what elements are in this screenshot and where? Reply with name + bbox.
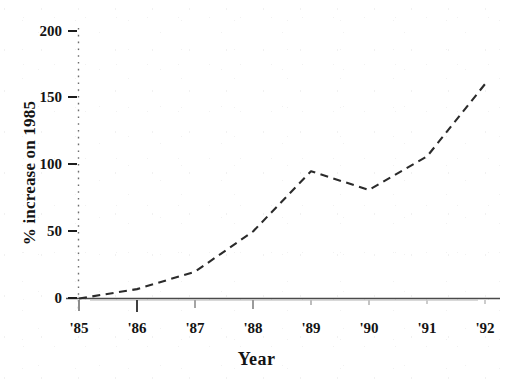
y-tick-mark-100 — [68, 163, 77, 165]
x-tick-mark-90 — [368, 300, 370, 305]
x-tick-mark-86 — [136, 300, 138, 312]
y-tick-label-0: 0 — [22, 291, 62, 306]
y-tick-mark-200 — [68, 30, 77, 32]
x-tick-mark-92 — [484, 300, 486, 304]
y-tick-mark-150 — [68, 96, 77, 98]
x-tick-label-89: '89 — [289, 320, 333, 336]
x-tick-label-92: '92 — [463, 320, 507, 336]
x-tick-mark-87 — [194, 300, 196, 308]
y-tick-mark-50 — [68, 230, 77, 232]
x-tick-mark-88 — [252, 300, 254, 309]
x-tick-label-91: '91 — [405, 320, 449, 336]
chart-figure: % increase on 1985 200 150 100 50 0 '85 … — [0, 0, 513, 390]
x-tick-label-88: '88 — [231, 320, 275, 336]
x-tick-label-86: '86 — [115, 320, 159, 336]
y-tick-label-50: 50 — [22, 224, 62, 239]
data-series-line — [79, 84, 485, 298]
x-tick-mark-91 — [426, 300, 428, 304]
x-tick-mark-85 — [78, 300, 80, 311]
x-tick-mark-89 — [310, 300, 312, 305]
y-tick-label-100: 100 — [22, 157, 62, 172]
x-axis-title: Year — [0, 349, 513, 370]
y-tick-mark-0 — [68, 297, 77, 299]
x-tick-label-85: '85 — [57, 320, 101, 336]
y-axis-title: % increase on 1985 — [17, 28, 43, 318]
y-tick-label-200: 200 — [22, 24, 62, 39]
y-tick-label-150: 150 — [22, 90, 62, 105]
x-tick-label-90: '90 — [347, 320, 391, 336]
x-tick-label-87: '87 — [173, 320, 217, 336]
